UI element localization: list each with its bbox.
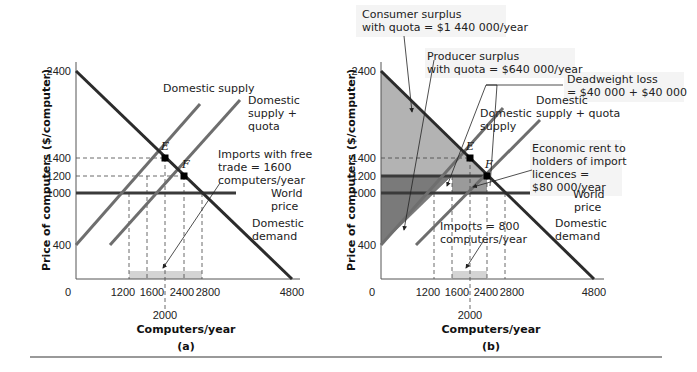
svg-text:2000: 2000 (153, 309, 177, 321)
world-price-label-visible: World (573, 188, 605, 201)
svg-text:1600: 1600 (445, 286, 469, 298)
imports-bar (452, 271, 487, 279)
world-price-label: World (271, 187, 303, 200)
producer-surplus-label-2: with quota = $640 000/year (427, 63, 583, 76)
world-price-label-2: price (574, 201, 602, 214)
imports-label: Imports with free (218, 148, 312, 161)
imports-label: Imports = 800 (440, 220, 519, 233)
svg-text:0: 0 (369, 286, 375, 298)
rent-label: Economic rent to (532, 142, 626, 155)
supply-quota-label-3: quota (248, 120, 280, 133)
x-axis-title: Computers/year (442, 323, 542, 336)
point-e-label: E (160, 140, 169, 153)
consumer-surplus-label: Consumer surplus (362, 8, 462, 21)
rent-label-2: holders of import (532, 155, 627, 168)
supply-quota-label-2: supply + (248, 107, 297, 120)
rent-label-3: licences = (532, 168, 589, 181)
panel-b: E F Consumer surplus with quota = $1 440… (345, 5, 687, 353)
y-axis-title: Price of computers ($/computer) (40, 69, 53, 271)
supply-quota-label: Domestic (248, 94, 300, 107)
demand-label-2: demand (555, 230, 600, 243)
producer-surplus-label: Producer surplus (427, 50, 519, 63)
demand-label: Domestic (252, 217, 304, 230)
domestic-supply-label: Domestic (480, 107, 532, 120)
imports-label-2: trade = 1600 (218, 161, 292, 174)
panel-a: E F Domestic supply Domestic supply + qu… (40, 62, 312, 353)
demand-label: Domestic (555, 217, 607, 230)
domestic-supply-label-2: supply (480, 120, 517, 133)
imports-label-2: computers/year (440, 233, 528, 246)
point-f-label: F (181, 158, 190, 171)
svg-text:2400: 2400 (474, 286, 498, 298)
svg-text:1600: 1600 (140, 286, 164, 298)
point-e (162, 155, 169, 162)
svg-text:4800: 4800 (582, 286, 606, 298)
svg-text:2800: 2800 (500, 286, 524, 298)
consumer-surplus-label-2: with quota = $1 440 000/year (362, 21, 528, 34)
x-ticks: 0 1200 1600 2400 2800 4800 2000 (65, 286, 304, 321)
svg-text:1200: 1200 (416, 286, 440, 298)
point-f (484, 173, 491, 180)
domestic-supply-label: Domestic supply (163, 82, 255, 95)
imports-arrow (163, 183, 220, 268)
point-e (467, 155, 474, 162)
imports-label-3: computers/year (218, 174, 306, 187)
svg-text:2000: 2000 (458, 309, 482, 321)
svg-text:2800: 2800 (196, 286, 220, 298)
point-e-label: E (465, 140, 474, 153)
svg-text:4800: 4800 (280, 286, 304, 298)
deadweight-loss-label: Deadweight loss (567, 73, 658, 86)
svg-text:2400: 2400 (170, 286, 194, 298)
panel-caption: (a) (177, 340, 194, 353)
y-axis-title: Price of computers ($/computer) (345, 69, 358, 271)
point-f (181, 173, 188, 180)
figure: E F Domestic supply Domestic supply + qu… (0, 0, 697, 372)
panel-caption: (b) (482, 340, 500, 353)
x-ticks: 0 1200 1600 2400 2800 4800 2000 (369, 286, 606, 321)
svg-text:400: 400 (53, 239, 71, 251)
svg-text:1200: 1200 (111, 286, 135, 298)
supply-quota-label-2: supply + quota (536, 107, 620, 120)
demand-label-2: demand (252, 230, 297, 243)
x-axis-title: Computers/year (137, 323, 237, 336)
supply-quota-label: Domestic (536, 94, 588, 107)
svg-text:0: 0 (65, 286, 71, 298)
world-price-label-2: price (271, 200, 299, 213)
imports-bar (129, 271, 202, 279)
svg-text:400: 400 (358, 239, 376, 251)
